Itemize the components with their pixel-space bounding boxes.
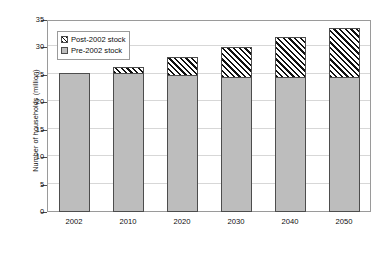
bar-segment-pre-2002[interactable]	[329, 77, 360, 212]
legend-item-pre-2002: Pre-2002 stock	[61, 45, 125, 56]
y-axis-label: 30	[10, 43, 44, 50]
x-axis-label: 2050	[314, 217, 374, 226]
bar-segment-pre-2002[interactable]	[113, 73, 144, 212]
y-axis-label: 5	[10, 181, 44, 188]
bar-segment-pre-2002[interactable]	[221, 77, 252, 212]
x-axis-label: 2002	[44, 217, 104, 226]
y-axis-label: 15	[10, 126, 44, 133]
hatch-swatch-icon	[61, 36, 68, 43]
y-axis-label: 25	[10, 71, 44, 78]
legend-item-post-2002: Post-2002 stock	[61, 34, 125, 45]
legend-label-pre-2002: Pre-2002 stock	[71, 47, 122, 55]
bar-segment-post-2002[interactable]	[113, 67, 144, 75]
chart-legend: Post-2002 stock Pre-2002 stock	[57, 31, 130, 60]
x-axis-label: 2040	[260, 217, 320, 226]
bar-segment-pre-2002[interactable]	[167, 75, 198, 212]
bar-segment-post-2002[interactable]	[167, 57, 198, 77]
x-axis-label: 2030	[206, 217, 266, 226]
y-axis-label: 20	[10, 98, 44, 105]
bar-segment-post-2002[interactable]	[275, 37, 306, 78]
bar-segment-post-2002[interactable]	[329, 28, 360, 78]
bar-segment-pre-2002[interactable]	[59, 73, 90, 212]
bar-segment-pre-2002[interactable]	[275, 77, 306, 212]
bar-segment-post-2002[interactable]	[221, 47, 252, 78]
stacked-bar-chart: Number of households (million) 051015202…	[0, 0, 387, 255]
y-axis-label: 35	[10, 16, 44, 23]
y-axis-label: 10	[10, 153, 44, 160]
gray-swatch-icon	[61, 47, 68, 54]
y-axis-label: 0	[10, 208, 44, 215]
legend-label-post-2002: Post-2002 stock	[71, 36, 125, 44]
x-axis-label: 2010	[98, 217, 158, 226]
x-axis-label: 2020	[152, 217, 212, 226]
